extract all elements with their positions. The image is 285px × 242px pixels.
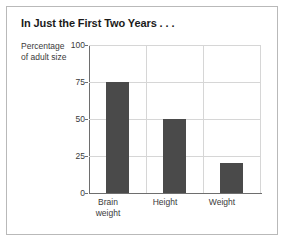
plot-right-edge bbox=[260, 45, 261, 193]
x-tick-label-weight-line-1: Weight bbox=[191, 197, 253, 208]
y-tick-mark-25 bbox=[85, 156, 88, 157]
x-tick-label-brain-weight-line-2: weight bbox=[77, 208, 139, 219]
x-tick-label-height-line-1: Height bbox=[134, 197, 196, 208]
x-tick-label-brain-weight: Brain weight bbox=[77, 197, 139, 218]
gridline-100 bbox=[89, 45, 261, 46]
y-tick-label-100: 100 bbox=[59, 40, 85, 50]
y-tick-mark-100 bbox=[85, 45, 88, 46]
chart-figure: In Just the First Two Years . . . Percen… bbox=[6, 6, 278, 235]
y-tick-mark-50 bbox=[85, 119, 88, 120]
x-tick-label-height: Height bbox=[134, 197, 196, 208]
chart-title: In Just the First Two Years . . . bbox=[21, 17, 174, 29]
y-tick-label-50: 50 bbox=[59, 114, 85, 124]
plot-area bbox=[89, 45, 261, 193]
category-separator-1 bbox=[146, 45, 147, 193]
y-tick-label-75: 75 bbox=[59, 77, 85, 87]
x-tick-label-weight: Weight bbox=[191, 197, 253, 208]
y-tick-label-25: 25 bbox=[59, 151, 85, 161]
y-tick-mark-75 bbox=[85, 82, 88, 83]
x-tick-label-brain-weight-line-1: Brain bbox=[77, 197, 139, 208]
bar-weight bbox=[220, 163, 243, 193]
bar-brain-weight bbox=[106, 82, 129, 193]
y-axis-tick-labels: 100 75 50 25 0 bbox=[57, 45, 85, 193]
category-separator-2 bbox=[203, 45, 204, 193]
y-tick-mark-0 bbox=[85, 193, 88, 194]
bar-height bbox=[163, 119, 186, 193]
x-axis-line bbox=[89, 193, 262, 194]
